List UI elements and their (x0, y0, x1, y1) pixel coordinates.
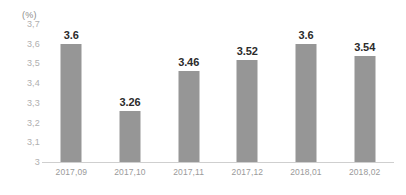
bar-value-label: 3.6 (64, 29, 79, 41)
x-axis-category-label: 2017,12 (218, 167, 277, 177)
bar-slot: 3.6 (277, 24, 336, 162)
bar (178, 71, 199, 162)
bar (119, 111, 140, 162)
y-axis-tick-label: 3,5 (0, 58, 40, 68)
y-axis-tick-label: 3,6 (0, 39, 40, 49)
y-axis-tick-label: 3,1 (0, 137, 40, 147)
bar-value-label: 3.54 (354, 41, 375, 53)
y-axis-tick-label: 3,2 (0, 118, 40, 128)
x-axis-category-labels: 2017,09 2017,10 2017,11 2017,12 2018,01 … (42, 167, 394, 183)
x-axis-category-label: 2018,02 (335, 167, 394, 177)
bar-slot: 3.26 (101, 24, 160, 162)
bar (237, 60, 258, 163)
y-axis-tick-labels: 3,7 3,6 3,5 3,4 3,3 3,2 3,1 3 (0, 0, 40, 195)
bar (61, 44, 82, 162)
x-axis-category-label: 2017,10 (101, 167, 160, 177)
y-axis-tick-label: 3 (0, 157, 40, 167)
bar-slot: 3.6 (42, 24, 101, 162)
bar (295, 44, 316, 162)
bar-chart: (%) 3,7 3,6 3,5 3,4 3,3 3,2 3,1 3 3.6 3.… (0, 0, 406, 195)
plot-area: 3.6 3.26 3.46 3.52 3.6 3.54 (42, 24, 394, 162)
bar-slot: 3.54 (335, 24, 394, 162)
y-axis-tick-label: 3,4 (0, 78, 40, 88)
y-axis-tick-label: 3,7 (0, 19, 40, 29)
x-axis-category-label: 2017,09 (42, 167, 101, 177)
x-axis-category-label: 2017,11 (159, 167, 218, 177)
bar-value-label: 3.6 (298, 29, 313, 41)
bar-value-label: 3.46 (178, 56, 199, 68)
x-axis-category-label: 2018,01 (277, 167, 336, 177)
bar-value-label: 3.26 (119, 96, 140, 108)
bar-value-label: 3.52 (237, 45, 258, 57)
x-axis-line (42, 162, 394, 163)
bar-slot: 3.52 (218, 24, 277, 162)
bar (354, 56, 375, 162)
bar-slot: 3.46 (159, 24, 218, 162)
y-axis-tick-label: 3,3 (0, 98, 40, 108)
